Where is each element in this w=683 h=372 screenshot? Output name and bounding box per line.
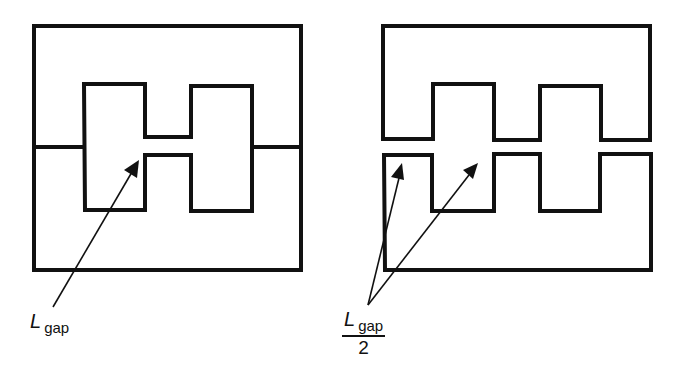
left-core xyxy=(34,26,301,270)
gap-subscript: gap xyxy=(358,317,383,334)
gap-subscript: gap xyxy=(44,319,69,336)
left-gap-label: Lgap xyxy=(30,310,69,333)
gap-symbol: L xyxy=(344,308,355,330)
left-core-inner-window xyxy=(84,84,252,211)
left-gap-arrow xyxy=(53,160,139,307)
right-core-bottom-piece xyxy=(384,154,651,270)
right-gap-fraction-label: Lgap 2 xyxy=(342,308,385,359)
right-core-top-piece xyxy=(383,26,650,140)
gap-symbol: L xyxy=(30,310,41,332)
fraction-denominator: 2 xyxy=(342,337,385,359)
fraction-numerator: Lgap xyxy=(342,308,385,331)
